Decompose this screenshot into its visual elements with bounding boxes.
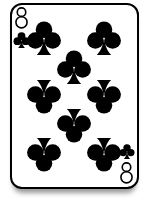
club-pip-icon bbox=[26, 136, 62, 174]
playing-card[interactable] bbox=[10, 3, 139, 189]
club-icon bbox=[119, 143, 135, 160]
card-corner-bottom-right bbox=[118, 143, 135, 185]
page-background bbox=[0, 0, 149, 202]
club-pip-icon bbox=[86, 136, 122, 174]
rank-8-glyph bbox=[118, 161, 135, 185]
